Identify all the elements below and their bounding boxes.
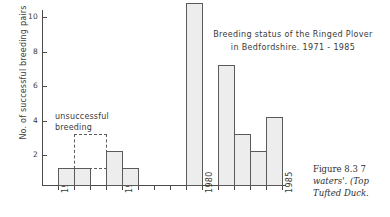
x-tick-1973 bbox=[90, 186, 91, 190]
chart-title-line-2: in Bedfordshire. 1971 - 1985 bbox=[196, 41, 390, 54]
x-tick-1972 bbox=[74, 186, 75, 190]
x-tick-1976 bbox=[138, 186, 139, 190]
bar-1982 bbox=[218, 65, 235, 186]
x-tick-1974 bbox=[106, 186, 107, 190]
dashed-unsuccessful-breeding-box bbox=[74, 134, 107, 169]
x-tick-1979 bbox=[186, 186, 187, 190]
x-tick-1983 bbox=[250, 186, 251, 190]
x-tick-1975 bbox=[122, 186, 123, 190]
figure-caption: Figure 8.3 7 waters'. (Top Tufted Duck. bbox=[313, 163, 390, 199]
figure-caption-line-3: Tufted Duck. bbox=[313, 187, 390, 199]
bar-1975 bbox=[122, 168, 139, 186]
x-tick-1977 bbox=[154, 186, 155, 190]
chart-plot-area: No. of successful breeding pairs 10 8 6 … bbox=[0, 0, 390, 217]
y-tick-label-2: 2 bbox=[22, 151, 38, 158]
x-tick-1982 bbox=[234, 186, 235, 190]
chart-title: Breeding status of the Ringed Plover in … bbox=[196, 28, 390, 54]
bar-1984 bbox=[250, 151, 267, 186]
y-tick-4 bbox=[43, 121, 47, 122]
bar-1974 bbox=[106, 151, 123, 186]
x-tick-1971 bbox=[58, 186, 59, 190]
bar-1971 bbox=[58, 168, 75, 186]
y-axis-title: No. of successful breeding pairs bbox=[19, 0, 28, 148]
y-tick-label-8: 8 bbox=[22, 48, 38, 55]
x-tick-1984 bbox=[266, 186, 267, 190]
annotation-line-2: breeding bbox=[55, 123, 92, 132]
y-tick-10 bbox=[43, 17, 47, 18]
annotation-unsuccessful-breeding: unsuccessful breeding bbox=[55, 112, 127, 133]
figure-caption-line-1: Figure 8.3 7 bbox=[313, 164, 366, 174]
chart-title-line-1: Breeding status of the Ringed Plover bbox=[213, 30, 372, 39]
x-tick-label-1985: 1985 bbox=[285, 171, 294, 193]
bar-1983 bbox=[234, 134, 251, 186]
figure-caption-line-2: waters'. (Top bbox=[313, 175, 390, 187]
x-tick-1981 bbox=[218, 186, 219, 190]
y-axis-line bbox=[42, 10, 43, 185]
x-tick-1980 bbox=[202, 186, 203, 190]
y-tick-6 bbox=[43, 86, 47, 87]
y-tick-label-4: 4 bbox=[22, 117, 38, 124]
y-tick-label-6: 6 bbox=[22, 82, 38, 89]
bar-1972 bbox=[74, 168, 91, 186]
y-tick-2 bbox=[43, 155, 47, 156]
y-tick-8 bbox=[43, 52, 47, 53]
x-tick-label-1980: 1980 bbox=[205, 171, 214, 193]
y-tick-label-10: 10 bbox=[22, 13, 38, 20]
x-tick-1985 bbox=[282, 186, 283, 190]
x-tick-1978 bbox=[170, 186, 171, 190]
annotation-line-1: unsuccessful bbox=[55, 112, 109, 121]
bar-1985 bbox=[266, 117, 283, 186]
